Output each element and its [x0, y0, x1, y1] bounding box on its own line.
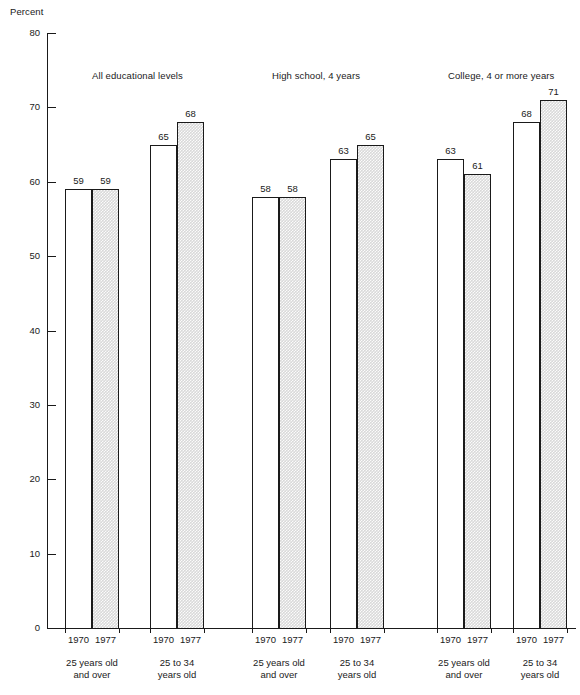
x-tick-mark: [119, 628, 120, 633]
bar-value-label: 63: [431, 146, 470, 156]
bar-value-label: 58: [273, 184, 312, 194]
x-tick-mark: [567, 628, 568, 633]
x-category-label: 25 years oldand over: [47, 657, 137, 681]
y-tick-mark: [47, 405, 56, 406]
x-category-label-line1: 25 years old: [47, 657, 137, 669]
bar-value-label: 71: [534, 87, 573, 97]
bar: [464, 174, 491, 628]
x-category-label: 25 to 34years old: [495, 657, 580, 681]
bar-value-label: 65: [351, 132, 390, 142]
bar: [437, 159, 464, 628]
y-tick-mark: [47, 182, 56, 183]
y-tick-label: 60: [0, 177, 40, 187]
group-title: High school, 4 years: [272, 70, 360, 81]
bar: [252, 197, 279, 628]
x-category-label-line2: and over: [234, 669, 324, 681]
x-category-label-line1: 25 to 34: [132, 657, 222, 669]
x-category-label-line2: and over: [47, 669, 137, 681]
x-category-label-line2: years old: [132, 669, 222, 681]
x-year-label: 1977: [534, 634, 573, 645]
bar: [357, 145, 384, 628]
y-tick-mark: [47, 256, 56, 257]
x-tick-mark: [513, 628, 514, 633]
x-category-label-line2: years old: [495, 669, 580, 681]
x-tick-mark: [306, 628, 307, 633]
x-category-label-line1: 25 years old: [234, 657, 324, 669]
x-tick-mark: [437, 628, 438, 633]
x-tick-mark: [330, 628, 331, 633]
x-tick-mark: [204, 628, 205, 633]
y-tick-label: 10: [0, 549, 40, 559]
y-tick-mark: [47, 107, 56, 108]
y-tick-label: 0: [0, 623, 40, 633]
x-year-label: 1977: [351, 634, 390, 645]
x-tick-mark: [252, 628, 253, 633]
x-category-label-line1: 25 to 34: [312, 657, 402, 669]
bar: [513, 122, 540, 628]
x-category-label: 25 to 34years old: [132, 657, 222, 681]
x-category-label: 25 to 34years old: [312, 657, 402, 681]
y-tick-label: 20: [0, 474, 40, 484]
x-year-label: 1977: [458, 634, 497, 645]
bar: [150, 145, 177, 628]
y-tick-mark: [47, 628, 56, 629]
y-tick-label: 50: [0, 251, 40, 261]
x-category-label-line1: 25 to 34: [495, 657, 580, 669]
y-tick-label: 70: [0, 102, 40, 112]
x-tick-mark: [384, 628, 385, 633]
y-tick-mark: [47, 331, 56, 332]
y-tick-label: 40: [0, 326, 40, 336]
x-tick-mark: [491, 628, 492, 633]
bar-value-label: 68: [171, 109, 210, 119]
bar: [540, 100, 567, 628]
x-axis-line: [47, 628, 576, 629]
x-category-label: 25 years oldand over: [234, 657, 324, 681]
group-title: All educational levels: [92, 70, 183, 81]
y-tick-mark: [47, 479, 56, 480]
x-year-label: 1977: [171, 634, 210, 645]
x-category-label-line2: years old: [312, 669, 402, 681]
bar: [177, 122, 204, 628]
x-tick-mark: [150, 628, 151, 633]
bar-chart: Percent 80706050403020100 All educationa…: [0, 0, 580, 695]
group-title: College, 4 or more years: [448, 70, 554, 81]
y-tick-label: 80: [0, 28, 40, 38]
y-axis-title: Percent: [10, 6, 43, 17]
x-tick-mark: [65, 628, 66, 633]
bar: [330, 159, 357, 628]
bar: [65, 189, 92, 628]
bar: [279, 197, 306, 628]
y-tick-mark: [47, 33, 56, 34]
bar: [92, 189, 119, 628]
x-year-label: 1977: [86, 634, 125, 645]
x-year-label: 1977: [273, 634, 312, 645]
bar-value-label: 59: [86, 176, 125, 186]
y-tick-label: 30: [0, 400, 40, 410]
y-tick-mark: [47, 554, 56, 555]
